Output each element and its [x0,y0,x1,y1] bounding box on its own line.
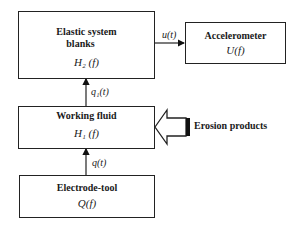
signal-label-u: u(t) [162,29,176,40]
block-elastic-system: Elastic system blanks H₂ (f) [18,11,155,79]
transfer-function: U(f) [186,44,285,56]
erosion-input-bar [186,118,190,136]
erosion-input-arrow [155,110,186,144]
signal-label-q1: q₁(t) [91,86,109,97]
block-accelerometer: Accelerometer U(f) [185,22,286,64]
block-title: Accelerometer [186,30,285,42]
erosion-products-label: Erosion products [194,120,267,131]
block-electrode-tool: Electrode-tool Q(f) [19,175,155,218]
signal-label-q: q(t) [92,157,106,168]
block-title: Electrode-tool [20,182,154,194]
block-title: blanks [7,38,154,50]
block-title: Working fluid [19,110,154,122]
transfer-function: H₁ (f) [19,127,154,139]
transfer-function: H₂ (f) [19,56,154,68]
block-title: Elastic system [19,26,154,38]
transfer-function: Q(f) [20,197,154,209]
block-working-fluid: Working fluid H₁ (f) [18,106,155,149]
